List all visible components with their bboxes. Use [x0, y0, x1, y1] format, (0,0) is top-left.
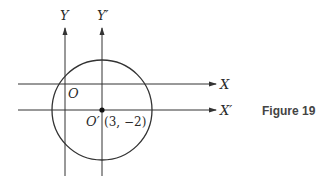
- x-axis-label: X: [219, 77, 230, 92]
- y-axis-label: Y: [60, 8, 70, 23]
- y-prime-axis-label: Y′: [97, 8, 109, 23]
- figure-caption: Figure 19: [262, 104, 316, 118]
- translation-of-axes-diagram: Y Y′ X X′ O O′ (3, −2) Figure 19: [0, 0, 334, 182]
- new-origin-coordinates: (3, −2): [104, 115, 146, 129]
- new-origin-label: O′: [86, 114, 100, 129]
- new-origin-point: [99, 107, 104, 112]
- origin-label: O: [68, 86, 79, 101]
- x-prime-axis-label: X′: [219, 103, 232, 118]
